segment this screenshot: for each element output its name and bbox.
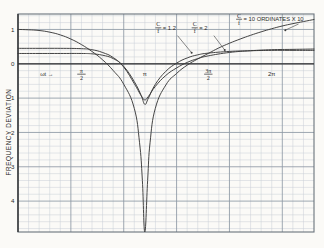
x-tick-label: 2π — [268, 71, 275, 77]
svg-text:f: f — [194, 28, 196, 34]
chart-svg: ωt →π2π3π22π101234 Cf= 1.2Cf= 2Cf= 10 OR… — [0, 0, 324, 248]
leader-dot-1 — [191, 52, 193, 54]
x-tick-label: π — [143, 71, 147, 77]
y-axis-title: FREQUENCY DEVIATION — [5, 88, 13, 175]
svg-text:2: 2 — [80, 74, 83, 81]
svg-text:f: f — [238, 20, 240, 26]
page-background — [0, 0, 324, 248]
svg-text:f: f — [157, 28, 159, 34]
leader-dot-3 — [284, 29, 286, 31]
svg-text:= 10 ORDINATES X 10: = 10 ORDINATES X 10 — [244, 16, 304, 22]
svg-text:C: C — [193, 21, 197, 27]
svg-text:C: C — [156, 21, 160, 27]
y-axis-title-text: FREQUENCY DEVIATION — [5, 88, 13, 175]
x-tick-label: ωt → — [40, 71, 53, 77]
svg-text:3π: 3π — [205, 67, 212, 74]
y-tick-label: 1 — [11, 26, 15, 33]
svg-text:= 2: = 2 — [199, 25, 207, 31]
svg-text:C: C — [237, 13, 241, 19]
leader-dot-2 — [224, 49, 226, 51]
figure-canvas: ωt →π2π3π22π101234 Cf= 1.2Cf= 2Cf= 10 OR… — [0, 0, 324, 248]
y-tick-label: 4 — [11, 197, 15, 204]
svg-text:= 1.2: = 1.2 — [163, 25, 176, 31]
y-tick-label: 0 — [11, 60, 15, 67]
svg-text:2: 2 — [207, 74, 210, 81]
